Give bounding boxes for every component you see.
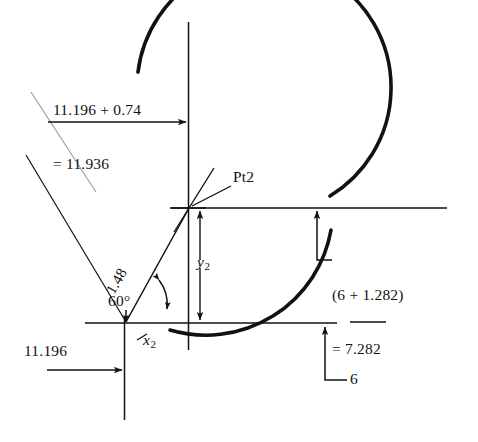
- angle-label-60-degrees: 60°: [108, 292, 130, 310]
- dimension-label-top: 11.196 + 0.74 = 11.936: [53, 64, 141, 210]
- radius-line-1-48: [126, 208, 189, 322]
- engineering-diagram: 11.196 + 0.74 = 11.936 Pt2 1.48 60° y2 x…: [0, 0, 478, 442]
- angle-arc-60: [159, 280, 167, 309]
- dimension-label-right: (6 + 1.282) = 7.282: [332, 249, 404, 395]
- pt2-lower-left-stub: [174, 208, 189, 232]
- dimension-label-bottom-right: 6: [350, 370, 358, 388]
- dimension-label-top-line2: = 11.936: [53, 155, 141, 173]
- y2-variable-label: y2: [197, 253, 210, 273]
- dimension-label-right-line1: (6 + 1.282): [332, 286, 404, 304]
- leader-line-pt2: [192, 186, 231, 206]
- radius-line-extension-stub: [189, 168, 214, 208]
- dimension-label-top-line1: 11.196 + 0.74: [53, 101, 141, 119]
- dimension-label-right-line2: = 7.282: [332, 340, 404, 358]
- circle-arc-lower-right: [170, 230, 331, 335]
- x2-subscript: 2: [150, 338, 156, 350]
- x2-variable-label: x2: [143, 331, 156, 351]
- circle-arc-main: [138, 0, 391, 196]
- point-label-pt2: Pt2: [233, 168, 254, 186]
- y2-subscript: 2: [204, 260, 210, 272]
- dimension-label-bottom-left: 11.196: [24, 342, 67, 360]
